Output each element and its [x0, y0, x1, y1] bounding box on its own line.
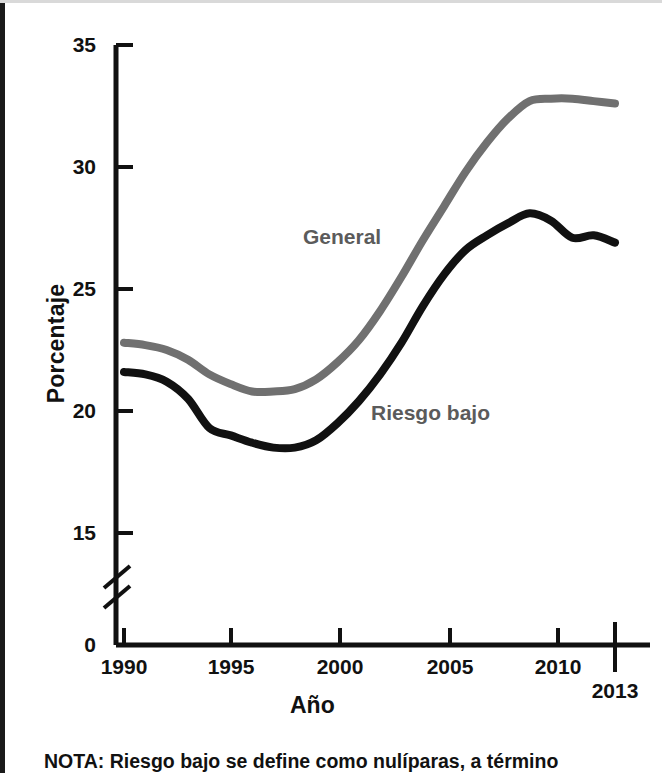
- x-tick-label-2000: 2000: [305, 655, 375, 679]
- figure-container: 35 30 25 20 15 0 1990 1995 2000 2005 201…: [0, 0, 662, 773]
- x-tick-label-1995: 1995: [196, 655, 266, 679]
- x-axis-title: Año: [290, 692, 335, 719]
- y-tick-label-30: 30: [48, 155, 96, 179]
- series-annotation-low-risk: Riesgo bajo: [371, 401, 490, 425]
- y-tick-label-35: 35: [48, 33, 96, 57]
- x-tick-label-1990: 1990: [89, 655, 159, 679]
- x-tick-label-2010: 2010: [523, 655, 593, 679]
- figure-note: NOTA: Riesgo bajo se define como nulípar…: [44, 748, 644, 773]
- x-tick-label-2005: 2005: [415, 655, 485, 679]
- x-tick-label-2013: 2013: [580, 679, 650, 703]
- series-annotation-general: General: [303, 225, 381, 249]
- y-tick-label-0: 0: [48, 633, 96, 657]
- y-axis-title: Porcentaje: [43, 244, 70, 444]
- y-tick-label-15: 15: [48, 521, 96, 545]
